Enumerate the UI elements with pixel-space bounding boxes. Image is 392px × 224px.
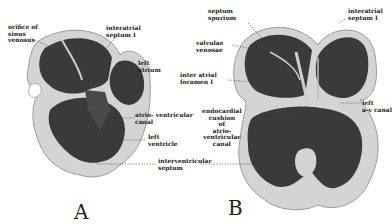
label-left-ventricle: left ventricle <box>148 134 178 147</box>
label-endocardial-cushion: endocardial cushion of atrio- ventricula… <box>202 108 242 147</box>
label-av-canal: atrio- ventricular canal <box>135 112 193 125</box>
label-interventricular-septum: interventricular septum <box>158 158 212 171</box>
label-left-av-canal: left a-v canal <box>362 100 392 113</box>
label-left-atrium: left atrium <box>138 60 161 73</box>
label-valvulae-venosae: valvulae venosae <box>196 40 224 53</box>
figure-letter-a: A <box>74 200 88 224</box>
label-interatrial-foramen: inter atrial foramen I <box>180 72 217 85</box>
label-interatrial-septum-b: interatrial septum I <box>348 8 383 21</box>
figure-a-heart <box>27 30 150 177</box>
figure-b-heart <box>234 27 378 209</box>
label-interatrial-septum-a: interatrial septum I <box>106 25 141 38</box>
figure-letter-b: B <box>228 196 243 220</box>
label-septum-spurium: septum spurium <box>208 8 236 21</box>
label-orifice-sinus-venosus: orifice of sinus venosus <box>8 24 38 44</box>
